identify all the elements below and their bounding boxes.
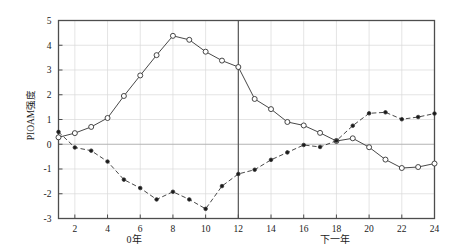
data-point-filled-circle-series: [318, 145, 322, 149]
data-point-filled-circle-series: [155, 198, 159, 202]
x-axis-tick-label: 22: [397, 224, 407, 234]
data-point-filled-circle-series: [237, 172, 241, 176]
data-point-open-circle-series: [170, 33, 175, 38]
x-axis-section-label-right: 下一年: [300, 231, 370, 246]
data-point-filled-circle-series: [384, 111, 388, 115]
y-axis-label-wrap: PIOAM强度: [22, 60, 38, 170]
y-axis-tick-label: 3: [47, 65, 52, 75]
data-point-open-circle-series: [350, 136, 355, 141]
data-point-filled-circle-series: [57, 130, 61, 134]
y-axis-tick-label: -1: [44, 164, 52, 174]
data-point-open-circle-series: [367, 145, 372, 150]
data-point-open-circle-series: [56, 135, 61, 140]
data-point-open-circle-series: [236, 65, 241, 70]
x-axis-tick-label: 12: [234, 224, 244, 234]
data-point-filled-circle-series: [400, 117, 404, 121]
data-point-open-circle-series: [187, 37, 192, 42]
data-point-filled-circle-series: [416, 115, 420, 119]
data-point-filled-circle-series: [73, 146, 77, 150]
data-point-filled-circle-series: [335, 139, 339, 143]
data-point-open-circle-series: [89, 124, 94, 129]
data-point-open-circle-series: [252, 96, 257, 101]
y-axis-tick-label: 1: [47, 115, 52, 125]
data-point-filled-circle-series: [253, 168, 257, 172]
y-axis-tick-label: -2: [44, 189, 52, 199]
y-axis-label: PIOAM强度: [23, 90, 37, 141]
data-point-open-circle-series: [105, 116, 110, 121]
data-point-filled-circle-series: [269, 158, 273, 162]
data-point-filled-circle-series: [351, 124, 355, 128]
x-axis-tick-label: 24: [430, 224, 440, 234]
series-line-open-circle-series: [59, 36, 435, 168]
data-point-open-circle-series: [138, 73, 143, 78]
y-axis-tick-label: 5: [47, 16, 52, 26]
y-axis-tick-label: 4: [47, 41, 52, 51]
x-axis-tick-label: 10: [201, 224, 211, 234]
y-axis-tick-label: 0: [47, 140, 52, 150]
data-point-open-circle-series: [318, 130, 323, 135]
x-axis-section-label-left: 0年: [104, 231, 164, 246]
data-point-open-circle-series: [383, 157, 388, 162]
chart-figure: PIOAM强度 543210-1-2-324681012141618202224…: [0, 0, 456, 252]
x-axis-tick-label: 8: [171, 224, 176, 234]
data-point-open-circle-series: [269, 107, 274, 112]
data-point-open-circle-series: [399, 166, 404, 171]
data-point-open-circle-series: [285, 119, 290, 124]
y-axis-tick-label: -3: [44, 214, 52, 224]
data-point-filled-circle-series: [367, 112, 371, 116]
data-point-filled-circle-series: [106, 160, 110, 164]
series-line-filled-circle-series: [59, 112, 435, 209]
data-point-filled-circle-series: [89, 149, 93, 153]
data-point-filled-circle-series: [286, 151, 290, 155]
data-point-filled-circle-series: [204, 207, 208, 211]
data-point-open-circle-series: [72, 131, 77, 136]
data-point-open-circle-series: [416, 165, 421, 170]
data-point-filled-circle-series: [122, 178, 126, 182]
x-axis-tick-label: 2: [72, 224, 77, 234]
data-point-open-circle-series: [432, 161, 437, 166]
data-point-filled-circle-series: [187, 198, 191, 202]
data-point-open-circle-series: [219, 58, 224, 63]
data-point-filled-circle-series: [302, 143, 306, 147]
data-point-open-circle-series: [301, 123, 306, 128]
data-point-filled-circle-series: [220, 184, 224, 188]
data-point-filled-circle-series: [171, 190, 175, 194]
data-point-open-circle-series: [154, 53, 159, 58]
data-point-filled-circle-series: [433, 112, 437, 116]
data-point-open-circle-series: [203, 49, 208, 54]
chart-plot-area: 543210-1-2-324681012141618202224: [0, 0, 456, 252]
y-axis-tick-label: 2: [47, 90, 52, 100]
x-axis-tick-label: 14: [266, 224, 276, 234]
data-point-open-circle-series: [121, 93, 126, 98]
data-point-filled-circle-series: [138, 186, 142, 190]
